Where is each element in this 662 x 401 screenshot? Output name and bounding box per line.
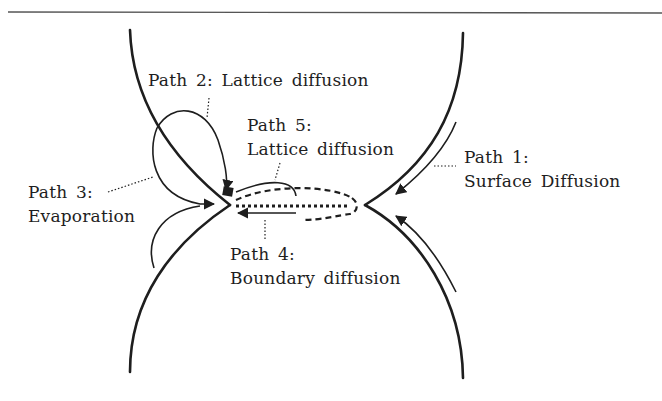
path2-leader bbox=[207, 98, 209, 118]
path5-label-line2: Lattice diffusion bbox=[247, 137, 394, 161]
path3-label: Path 3: Evaporation bbox=[28, 180, 135, 228]
path2-lattice-diffusion-arrow bbox=[157, 111, 227, 190]
path5-leader bbox=[275, 163, 280, 180]
grain-boundary-region bbox=[236, 188, 357, 220]
path1-label-line1: Path 1: bbox=[464, 145, 620, 169]
path4-label: Path 4: Boundary diffusion bbox=[230, 242, 401, 290]
lower-particle-left-surface bbox=[130, 205, 230, 372]
path3-evaporation-arrows bbox=[151, 128, 214, 268]
path4-label-line2: Boundary diffusion bbox=[230, 266, 401, 290]
path5-label-line1: Path 5: bbox=[247, 113, 394, 137]
sintering-diagram: Path 2: Lattice diffusion Path 5: Lattic… bbox=[0, 0, 662, 401]
path1-surface-diffusion-arrows bbox=[396, 122, 456, 292]
path2-arrow-head bbox=[222, 186, 233, 197]
path2-label: Path 2: Lattice diffusion bbox=[148, 68, 369, 92]
upper-particle-left-surface bbox=[130, 30, 230, 205]
path1-label: Path 1: Surface Diffusion bbox=[464, 145, 620, 193]
path5-label: Path 5: Lattice diffusion bbox=[247, 113, 394, 161]
path2-label-line1: Path 2: Lattice diffusion bbox=[148, 70, 369, 90]
path1-label-line2: Surface Diffusion bbox=[464, 169, 620, 193]
path4-label-line1: Path 4: bbox=[230, 242, 401, 266]
path3-label-line1: Path 3: bbox=[28, 180, 135, 204]
top-rule bbox=[8, 12, 662, 13]
path3-label-line2: Evaporation bbox=[28, 204, 135, 228]
